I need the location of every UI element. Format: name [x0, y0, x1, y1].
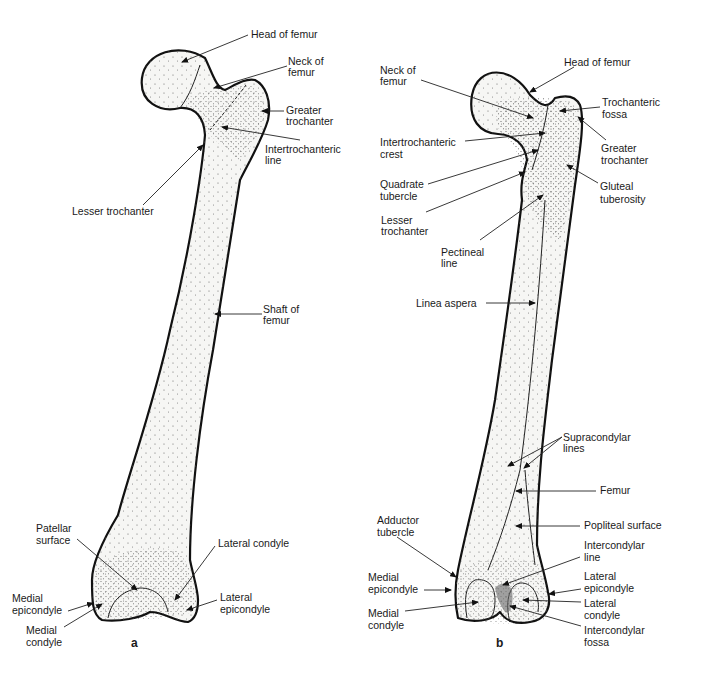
panel-label-b: b	[496, 636, 503, 650]
label-lateral-condyle-a: Lateral condyle	[218, 537, 289, 549]
label-medial-epicondyle-a: Medialepicondyle	[12, 592, 62, 616]
label-head-of-femur-a: Head of femur	[251, 28, 318, 40]
label-gluteal-tuberosity-b: Glutealtuberosity	[600, 180, 646, 205]
label-trochanteric-fossa-b: Trochantericfossa	[602, 96, 660, 120]
label-medial-epicondyle-b: Medialepicondyle	[368, 571, 418, 595]
label-neck-of-femur-a: Neck offemur	[288, 55, 324, 78]
label-quadrate-tubercle-b: Quadratetubercle	[380, 178, 424, 202]
label-intertrochanteric-line-a: Intertrochantericline	[265, 143, 341, 166]
label-head-of-femur-b: Head of femur	[564, 56, 631, 68]
label-lateral-epicondyle-b: Lateralepicondyle	[584, 570, 634, 594]
label-linea-aspera-b: Linea aspera	[416, 297, 477, 309]
label-popliteal-surface-b: Popliteal surface	[584, 519, 662, 531]
label-medial-condyle-a: Medialcondyle	[26, 624, 62, 648]
label-medial-condyle-b: Medialcondyle	[368, 607, 404, 631]
label-pectineal-line-b: Pectinealline	[441, 246, 484, 269]
label-intertrochanteric-crest-b: Intertrochantericcrest	[380, 136, 456, 160]
femur-anterior-view: a	[92, 50, 269, 650]
label-lesser-trochanter-a: Lesser trochanter	[72, 205, 154, 217]
label-intercondylar-line-b: Intercondylarline	[584, 539, 645, 563]
panel-label-a: a	[131, 636, 138, 650]
label-adductor-tubercle-b: Adductortubercle	[377, 514, 420, 538]
label-intercondylar-fossa-b: Intercondylarfossa	[584, 624, 645, 648]
femur-diagram: a Head of femur Neck offemur Greatertroc…	[0, 0, 703, 689]
label-neck-of-femur-b: Neck offemur	[380, 64, 416, 87]
label-shaft-of-femur-a: Shaft offemur	[263, 303, 299, 326]
label-greater-trochanter-a: Greatertrochanter	[286, 104, 334, 127]
label-lateral-condyle-b: Lateralcondyle	[584, 597, 620, 621]
label-supracondylar-lines-b: Supracondylarlines	[563, 431, 631, 454]
femur-a-distal-shading	[93, 548, 196, 619]
label-greater-trochanter-b: Greatertrochanter	[601, 142, 649, 166]
label-lesser-trochanter-b: Lessertrochanter	[381, 214, 429, 237]
label-femur-b: Femur	[600, 484, 631, 496]
label-lateral-epicondyle-a: Lateralepicondyle	[220, 591, 270, 615]
label-patellar-surface-a: Patellarsurface	[36, 522, 72, 546]
